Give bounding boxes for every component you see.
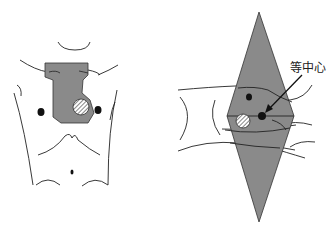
navel-marker [71,170,74,175]
target-lesion-lateral [236,114,250,128]
isocenter-point [258,112,266,120]
anatomic-marker-lateral [246,94,252,101]
diagram-canvas [0,0,334,235]
nipple-right-marker [95,106,102,114]
nipple-left-marker [38,108,45,116]
target-lesion-anterior [73,99,89,115]
treatment-field-anterior [45,63,94,123]
isocenter-label: 等中心 [290,58,326,75]
